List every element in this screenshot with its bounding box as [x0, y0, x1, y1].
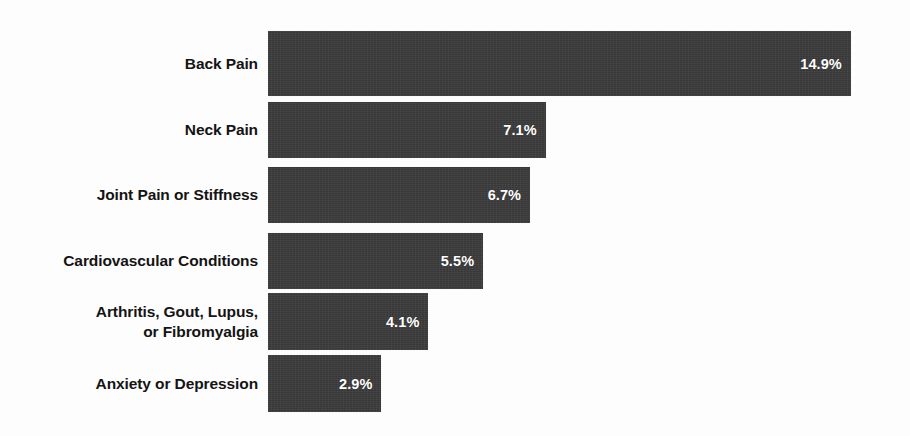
bar-row: Arthritis, Gout, Lupus, or Fibromyalgia4…	[0, 293, 910, 350]
footer-artifact-text	[0, 427, 910, 436]
category-label: Anxiety or Depression	[0, 374, 258, 394]
horizontal-bar-chart: Back Pain14.9%Neck Pain7.1%Joint Pain or…	[0, 0, 910, 436]
bar[interactable]: 6.7%	[268, 167, 530, 223]
bar[interactable]: 4.1%	[268, 293, 428, 350]
bar-value-label: 5.5%	[441, 253, 474, 269]
bar[interactable]: 7.1%	[268, 102, 546, 158]
bar-track: 2.9%	[268, 355, 381, 412]
bar-row: Joint Pain or Stiffness6.7%	[0, 167, 910, 223]
category-label: Neck Pain	[0, 120, 258, 140]
bar-track: 6.7%	[268, 167, 530, 223]
category-label: Arthritis, Gout, Lupus, or Fibromyalgia	[0, 302, 258, 342]
bar-value-label: 14.9%	[800, 56, 842, 72]
bar-track: 7.1%	[268, 102, 546, 158]
category-label: Back Pain	[0, 54, 258, 74]
bar-value-label: 6.7%	[488, 187, 521, 203]
bar[interactable]: 2.9%	[268, 355, 381, 412]
bar-track: 14.9%	[268, 31, 851, 96]
bar-value-label: 7.1%	[503, 122, 536, 138]
bar-row: Neck Pain7.1%	[0, 102, 910, 158]
bar-row: Anxiety or Depression2.9%	[0, 355, 910, 412]
bar[interactable]: 5.5%	[268, 233, 483, 289]
bar-row: Back Pain14.9%	[0, 31, 910, 96]
category-label: Joint Pain or Stiffness	[0, 185, 258, 205]
bar[interactable]: 14.9%	[268, 31, 851, 96]
bar-value-label: 4.1%	[386, 314, 419, 330]
plot-area: Back Pain14.9%Neck Pain7.1%Joint Pain or…	[0, 0, 910, 436]
bar-row: Cardiovascular Conditions5.5%	[0, 233, 910, 289]
bar-track: 5.5%	[268, 233, 483, 289]
bar-value-label: 2.9%	[339, 376, 372, 392]
bar-track: 4.1%	[268, 293, 428, 350]
category-label: Cardiovascular Conditions	[0, 251, 258, 271]
